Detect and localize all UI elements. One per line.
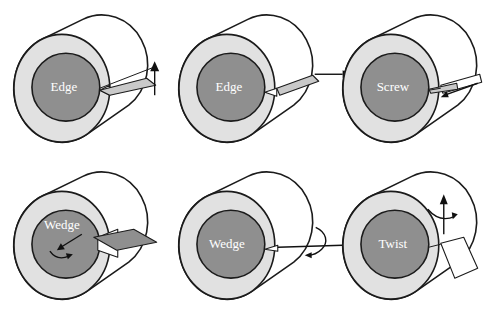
core-label: Wedge xyxy=(44,217,80,232)
twist-cylinder-figure: Twist xyxy=(329,157,494,313)
rotation-arc-arrow-icon xyxy=(304,252,311,258)
panel-twist: Twist xyxy=(329,157,494,313)
panel-edge-up: Edge xyxy=(0,0,165,157)
panel-edge-right: Edge xyxy=(165,0,330,157)
up-arrow-icon xyxy=(150,61,159,71)
panel-wedge-insert: Wedge xyxy=(0,157,165,313)
screw-cylinder-figure: Screw xyxy=(329,0,494,157)
panel-wedge-rotate: Wedge xyxy=(165,157,330,313)
core-label: Wedge xyxy=(209,236,245,251)
core-label: Twist xyxy=(379,236,408,251)
edge-up-cylinder-figure: Edge xyxy=(0,0,165,157)
wedge-rotate-cylinder-figure: Wedge xyxy=(165,157,330,313)
figure-grid: Edge Edge Screw xyxy=(0,0,494,313)
core-label: Edge xyxy=(51,79,78,94)
core-label: Edge xyxy=(215,79,242,94)
wedge-insert-cylinder-figure: Wedge xyxy=(0,157,165,313)
core-label: Screw xyxy=(377,79,410,94)
edge-right-cylinder-figure: Edge xyxy=(165,0,330,157)
panel-screw: Screw xyxy=(329,0,494,157)
